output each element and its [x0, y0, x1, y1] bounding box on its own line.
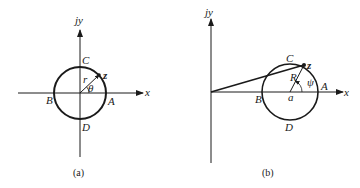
figure-a: jy x C z r θ B A D (a): [18, 14, 150, 179]
x-axis-label-a: x: [144, 86, 150, 98]
x-axis-label-b: x: [343, 86, 349, 98]
label-R-b: R: [289, 71, 297, 83]
caption-a: (a): [73, 167, 84, 179]
point-z-b: [302, 63, 306, 67]
label-D-a: D: [81, 121, 90, 133]
label-theta-a: θ: [88, 82, 94, 94]
label-B-b: B: [255, 93, 262, 105]
y-axis-label-a: jy: [73, 14, 83, 26]
label-B-a: B: [46, 94, 53, 106]
label-A-b: A: [320, 80, 328, 92]
diagram-canvas: jy x C z r θ B A D (a) jy x C z R ψ a B …: [0, 0, 360, 188]
label-D-b: D: [284, 121, 293, 133]
label-psi-b: ψ: [307, 76, 314, 88]
label-a-center-b: a: [288, 91, 294, 103]
figure-b: jy x C z R ψ a B A D (b): [203, 6, 349, 179]
label-A-a: A: [107, 95, 115, 107]
caption-b: (b): [262, 167, 274, 179]
point-z-a: [97, 73, 101, 77]
y-axis-label-b: jy: [203, 6, 213, 18]
label-C-a: C: [82, 54, 90, 66]
label-C-b: C: [286, 52, 294, 64]
label-z-a: z: [102, 69, 108, 81]
label-z-b: z: [306, 59, 312, 71]
